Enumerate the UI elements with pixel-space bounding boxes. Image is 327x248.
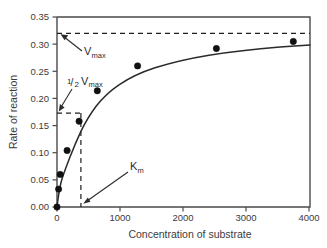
y-tick-label-7: 0.35 <box>31 11 50 22</box>
y-tick-label-3: 0.15 <box>31 120 50 131</box>
y-tick-label-6: 0.30 <box>31 39 50 50</box>
x-tick-label-4: 4000 <box>298 212 319 223</box>
data-point <box>64 147 70 153</box>
x-tick-label-2: 2000 <box>172 212 193 223</box>
y-tick-label-0: 0.00 <box>31 201 50 212</box>
half-vmax-slash: / <box>71 77 74 88</box>
x-tick-label-1: 1000 <box>109 212 130 223</box>
x-tick-label-3: 3000 <box>235 212 256 223</box>
km-label-sub: m <box>138 166 144 175</box>
data-point <box>290 38 296 44</box>
data-point <box>54 204 60 210</box>
michaelis-menten-chart: 0.00 0.05 0.10 0.15 0.20 0.25 0.30 0.35 … <box>0 0 327 248</box>
data-point <box>213 45 219 51</box>
data-point <box>134 63 140 69</box>
half-vmax-label-sub: max <box>89 80 103 89</box>
y-tick-label-5: 0.25 <box>31 66 50 77</box>
x-tick-label-0: 0 <box>54 212 59 223</box>
half-vmax-denominator: 2 <box>75 80 80 89</box>
y-axis-title: Rate of reaction <box>7 75 19 149</box>
y-tick-label-2: 0.10 <box>31 147 50 158</box>
data-point <box>55 186 61 192</box>
vmax-label-sub: max <box>92 51 106 60</box>
data-point <box>76 118 82 124</box>
chart-background <box>0 0 327 248</box>
y-tick-label-1: 0.05 <box>31 174 50 185</box>
x-axis-title: Concentration of substrate <box>128 228 251 240</box>
y-tick-label-4: 0.20 <box>31 93 50 104</box>
data-point <box>57 171 63 177</box>
